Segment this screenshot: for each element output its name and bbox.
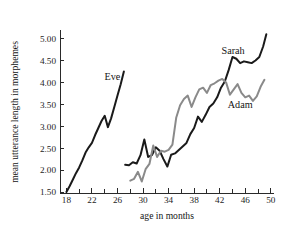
x-axis-tick-labels: 182226303438424650	[62, 195, 276, 205]
y-tick-label: 5.00	[40, 34, 56, 44]
y-tick-label: 4.50	[40, 56, 56, 66]
y-tick-label: 4.00	[40, 78, 56, 88]
y-tick-label: 2.00	[40, 165, 56, 175]
series-curve-adam	[130, 79, 264, 182]
y-axis-title: mean utterance length in morphemes	[9, 41, 20, 183]
x-axis-ticks	[66, 188, 270, 193]
x-axis: 182226303438424650	[60, 188, 276, 205]
y-axis: 1.502.002.503.003.504.004.505.00	[40, 30, 64, 197]
series-label-adam: Adam	[228, 99, 253, 110]
x-tick-label: 18	[62, 195, 72, 205]
x-tick-label: 34	[164, 195, 174, 205]
x-tick-label: 42	[215, 195, 225, 205]
mlu-line-chart: 1.502.002.503.003.504.004.505.00 1822263…	[0, 0, 288, 233]
chart-figure: 1.502.002.503.003.504.004.505.00 1822263…	[0, 0, 288, 233]
series-label-eve: Eve	[104, 71, 120, 82]
y-tick-label: 2.50	[40, 144, 56, 154]
y-tick-label: 3.00	[40, 122, 56, 132]
x-tick-label: 22	[87, 195, 97, 205]
y-tick-label: 1.50	[40, 187, 56, 197]
series-curve-eve	[66, 71, 123, 192]
x-tick-label: 46	[241, 195, 251, 205]
x-tick-label: 26	[113, 195, 123, 205]
series-curves	[66, 34, 266, 192]
series-inline-labels: EveSarahAdam	[104, 45, 252, 109]
series-label-sarah: Sarah	[222, 45, 245, 56]
x-tick-label: 30	[138, 195, 148, 205]
y-axis-tick-labels: 1.502.002.503.003.504.004.505.00	[40, 34, 56, 197]
y-tick-label: 3.50	[40, 100, 56, 110]
x-tick-label: 38	[190, 195, 200, 205]
x-tick-label: 50	[266, 195, 276, 205]
x-axis-title: age in months	[140, 210, 194, 221]
y-axis-ticks	[60, 39, 64, 192]
